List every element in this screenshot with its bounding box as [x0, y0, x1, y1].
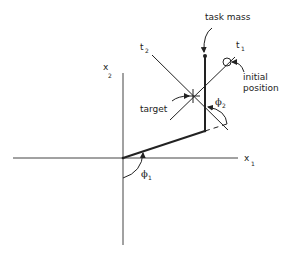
phi2-label: ϕ [215, 96, 222, 107]
arm-diagram: task mass t 2 t 1 x 2 x 1 initial positi… [0, 0, 296, 255]
initial-position-arrow [232, 62, 244, 72]
phi2-arc [208, 107, 227, 124]
shoulder-joint [122, 157, 125, 160]
x2-subscript: 2 [108, 72, 112, 79]
x1-label: x [244, 153, 250, 163]
phi1-label: ϕ [141, 168, 148, 179]
initial-label: initial [243, 72, 268, 82]
t2-subscript: 2 [145, 47, 149, 54]
target-arrow [172, 96, 189, 101]
x1-subscript: 1 [251, 160, 255, 167]
position-label: position [243, 83, 279, 93]
t1-line [170, 57, 235, 120]
task-mass-arrow [204, 28, 212, 52]
t1-subscript: 1 [241, 45, 245, 52]
task-mass-label: task mass [205, 12, 251, 22]
t2-line [152, 55, 228, 130]
upper-arm-extension [205, 123, 230, 131]
x2-label: x [103, 62, 109, 72]
upper-arm-link [123, 131, 205, 158]
t2-label: t [140, 42, 144, 52]
t1-label: t [236, 40, 240, 50]
elbow-joint [204, 130, 207, 133]
phi1-subscript: 1 [148, 174, 152, 181]
phi2-subscript: 2 [222, 102, 226, 109]
target-label: target [140, 104, 168, 114]
task-mass-dot [203, 54, 207, 58]
